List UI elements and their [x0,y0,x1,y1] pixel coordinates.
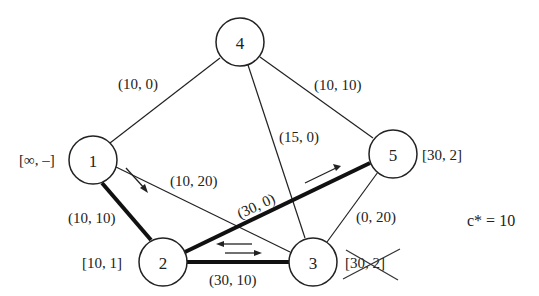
node-1: 1 [69,136,117,184]
node-3-label: 3 [309,254,318,273]
node-2: 2 [139,238,187,286]
node-1-mark: [∞, –] [19,152,55,168]
edge-1-4 [110,58,220,143]
node-2-mark: [10, 1] [82,255,122,271]
node-5: 5 [369,130,417,178]
node-5-label: 5 [389,146,398,165]
edge-3-5-label: (0, 20) [356,209,396,226]
node-3: 3 [289,238,337,286]
edge-4-5 [260,57,373,138]
node-5-mark: [30, 2] [422,147,462,163]
edge-1-3-label: (10, 20) [170,173,218,190]
edge-2-3-label: (30, 10) [209,272,257,289]
edge-4-5-label: (10, 10) [314,77,362,94]
node-4-label: 4 [236,34,245,53]
node-3-mark-crossed: [30, 2] [343,249,400,280]
arrow-2-to-3-icon [225,250,262,256]
arrow-3-to-2-icon [216,241,252,247]
edge-3-5 [327,172,378,242]
node-4: 4 [216,18,264,66]
node-2-label: 2 [159,254,168,273]
node-1-label: 1 [89,152,98,171]
edge-4-3-label: (15, 0) [279,129,319,146]
edge-1-4-label: (10, 0) [118,76,158,93]
edge-1-2-label: (10, 10) [68,210,116,227]
flow-network-diagram: 4 1 5 2 3 [∞, –] [10, 1] [30, 2] [30, 2]… [0,0,539,296]
c-star-annotation: c* = 10 [467,212,515,229]
